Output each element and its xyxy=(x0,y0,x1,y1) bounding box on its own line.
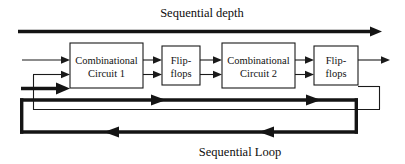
block-flip-flops-1[interactable]: Flip- flops xyxy=(162,46,200,85)
block-flip-flops-2[interactable]: Flip- flops xyxy=(314,46,358,85)
cc1-to-ff1-connections xyxy=(143,56,162,78)
block-combinational-circuit-2-line1: Combinational xyxy=(227,55,289,66)
block-flip-flops-2-rect[interactable] xyxy=(314,46,358,85)
sequential-depth-arrowhead xyxy=(370,27,382,37)
sequential-loop-caption: Sequential Loop xyxy=(199,145,281,159)
sequential-loop-bottom-arrowhead-2 xyxy=(259,127,274,138)
block-flip-flops-1-line2: flops xyxy=(171,68,192,79)
thin-feedback-input-arrowhead xyxy=(61,71,70,79)
block-combinational-circuit-1-rect[interactable] xyxy=(70,43,143,88)
ff1-to-cc2-arrowhead-upper xyxy=(213,56,222,64)
block-combinational-circuit-2[interactable]: Combinational Circuit 2 xyxy=(222,43,295,88)
block-combinational-circuit-1[interactable]: Combinational Circuit 1 xyxy=(70,43,143,88)
sequential-loop-top-arrowhead-1 xyxy=(151,95,166,106)
cc2-to-ff2-arrowhead-lower xyxy=(305,71,314,79)
cc2-to-ff2-arrowhead-upper xyxy=(305,56,314,64)
thick-feedback-input-arrowhead xyxy=(56,83,70,95)
block-combinational-circuit-2-line2: Circuit 2 xyxy=(240,68,277,79)
block-flip-flops-1-line1: Flip- xyxy=(171,55,192,66)
sequential-loop-path xyxy=(20,95,358,138)
primary-output-arrow xyxy=(358,56,390,64)
block-flip-flops-1-rect[interactable] xyxy=(162,46,200,85)
sequential-loop-bottom-arrowhead-1 xyxy=(104,127,119,138)
block-combinational-circuit-2-rect[interactable] xyxy=(222,43,295,88)
block-flip-flops-2-line2: flops xyxy=(326,68,347,79)
primary-output-arrowhead xyxy=(381,56,390,64)
primary-input-arrow xyxy=(22,56,70,64)
block-combinational-circuit-1-line2: Circuit 1 xyxy=(88,68,125,79)
ff1-to-cc2-arrowhead-lower xyxy=(213,71,222,79)
ff1-to-cc2-connections xyxy=(200,56,222,78)
block-combinational-circuit-1-line1: Combinational xyxy=(75,55,137,66)
sequential-loop-top-arrowhead-2 xyxy=(306,95,321,106)
cc1-to-ff1-arrowhead-lower xyxy=(153,71,162,79)
cc1-to-ff1-arrowhead-upper xyxy=(153,56,162,64)
thick-feedback-input-arrow xyxy=(21,83,70,95)
diagram-canvas: Combinational Circuit 1 Flip- flops Comb… xyxy=(0,0,405,164)
block-flip-flops-2-line1: Flip- xyxy=(326,55,347,66)
primary-input-arrowhead xyxy=(61,56,70,64)
sequential-depth-diagram: Combinational Circuit 1 Flip- flops Comb… xyxy=(0,0,405,164)
cc2-to-ff2-connections xyxy=(295,56,314,78)
sequential-depth-arrow xyxy=(18,27,382,37)
sequential-depth-caption: Sequential depth xyxy=(160,6,244,20)
